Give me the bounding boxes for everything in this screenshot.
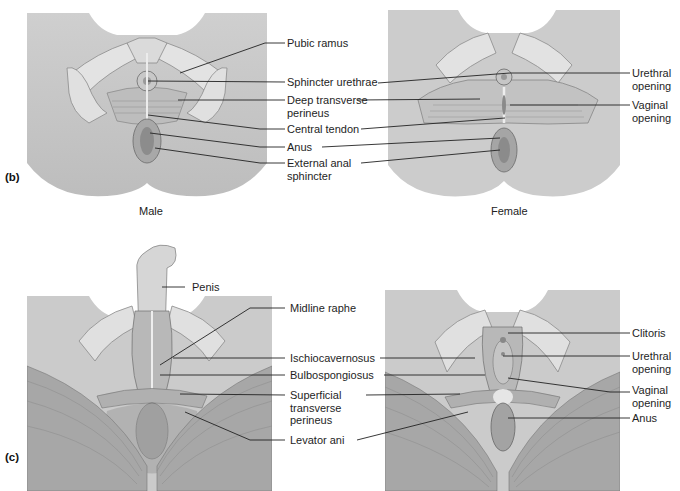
label-anus-c: Anus [632, 412, 657, 425]
label-line-2: opening [632, 80, 671, 93]
label-anus-b: Anus [287, 141, 312, 154]
label-urethral-opening-c: Urethral opening [632, 350, 671, 375]
label-clitoris: Clitoris [632, 327, 666, 340]
label-line-1: Urethral [632, 350, 671, 363]
label-line-2: sphincter [287, 170, 351, 183]
label-line-1: Urethral [632, 67, 671, 80]
label-line-1: External anal [287, 157, 351, 170]
label-sphincter-urethrae: Sphincter urethrae [287, 76, 378, 89]
label-superficial-transverse-perineus: Superficial transverse perineus [290, 389, 341, 427]
caption-female: Female [491, 205, 528, 217]
label-external-anal-sphincter: External anal sphincter [287, 157, 351, 182]
label-line-2: perineus [287, 107, 368, 120]
label-line-1: Vaginal [632, 99, 671, 112]
label-line-2: transverse [290, 402, 341, 415]
label-levator-ani: Levator ani [290, 434, 344, 447]
label-line-3: perineus [290, 414, 341, 427]
label-central-tendon: Central tendon [287, 123, 359, 136]
label-line-2: opening [632, 363, 671, 376]
label-penis: Penis [192, 281, 220, 294]
panel-c-female-illustration [385, 282, 620, 491]
label-deep-transverse-perineus: Deep transverse perineus [287, 94, 368, 119]
label-line-2: opening [632, 112, 671, 125]
label-vaginal-opening-c: Vaginal opening [632, 384, 671, 409]
panel-tag-c: (c) [5, 451, 19, 463]
label-midline-raphe: Midline raphe [290, 302, 356, 315]
panel-tag-b: (b) [5, 171, 20, 183]
label-line-1: Superficial [290, 389, 341, 402]
label-bulbospongiosus: Bulbospongiosus [290, 369, 374, 382]
caption-male: Male [139, 205, 163, 217]
panel-b-female-illustration [388, 5, 620, 203]
label-urethral-opening-b: Urethral opening [632, 67, 671, 92]
label-ischiocavernosus: Ischiocavernosus [290, 352, 375, 365]
label-line-1: Vaginal [632, 384, 671, 397]
label-vaginal-opening-b: Vaginal opening [632, 99, 671, 124]
label-pubic-ramus: Pubic ramus [287, 37, 348, 50]
panel-c-male-illustration [27, 236, 272, 491]
panel-b-male-illustration [27, 13, 267, 203]
label-line-1: Deep transverse [287, 94, 368, 107]
label-line-2: opening [632, 397, 671, 410]
